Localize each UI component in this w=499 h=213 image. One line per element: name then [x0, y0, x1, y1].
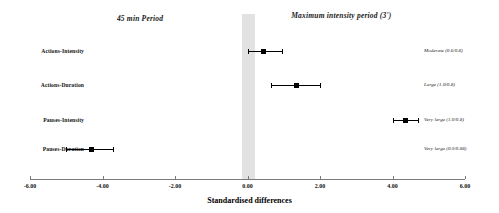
x-tick [465, 176, 466, 179]
row-label-pauses-intensity: Pauses-Intensity [0, 117, 84, 123]
effect-size-marker [294, 83, 299, 88]
effect-size-marker [403, 118, 408, 123]
x-tick-label: -4.00 [83, 183, 123, 189]
confidence-interval-cap [320, 83, 321, 88]
confidence-interval-cap [393, 118, 394, 123]
row-label-actions-duration: Actions-Duration [0, 82, 84, 88]
effect-magnitude-annotation: Moderate (0.6/0.8) [424, 48, 463, 53]
x-tick-label: 0.00 [228, 183, 268, 189]
confidence-interval-cap [418, 118, 419, 123]
x-tick [30, 176, 31, 179]
confidence-interval-cap [271, 83, 272, 88]
x-axis-title: Standardised differences [0, 196, 499, 205]
x-tick-label: 4.00 [373, 183, 413, 189]
x-tick [393, 176, 394, 179]
x-tick-label: 2.00 [300, 183, 340, 189]
x-tick [175, 176, 176, 179]
confidence-interval-cap [282, 49, 283, 54]
effect-size-marker [89, 147, 94, 152]
effect-magnitude-annotation: Very large (1.0/0.8) [424, 117, 464, 122]
x-axis-line [30, 179, 465, 180]
x-tick [248, 176, 249, 179]
x-tick-label: 6.00 [445, 183, 485, 189]
group-header-left: 45 min Period [117, 14, 163, 23]
x-tick [320, 176, 321, 179]
null-effect-band [242, 14, 255, 179]
effect-size-marker [261, 49, 266, 54]
row-label-actions-intensity: Actions-Intensity [0, 48, 84, 54]
group-header-right: Maximum intensity period (3') [291, 11, 391, 20]
x-tick [103, 176, 104, 179]
confidence-interval-cap [113, 147, 114, 152]
confidence-interval-cap [66, 147, 67, 152]
effect-magnitude-annotation: Very large (0.9/0.88) [424, 146, 467, 151]
forest-plot: 45 min Period Maximum intensity period (… [0, 0, 499, 213]
confidence-interval-cap [248, 49, 249, 54]
effect-magnitude-annotation: Large (1.0/0.8) [424, 82, 455, 87]
x-tick-label: -6.00 [10, 183, 50, 189]
x-tick-label: -2.00 [155, 183, 195, 189]
